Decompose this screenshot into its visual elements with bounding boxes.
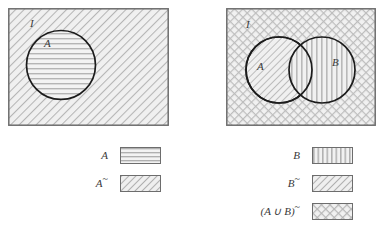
venn-panel-a-union-b-complement: I A B	[226, 8, 376, 126]
set-a-circle-left	[27, 31, 96, 100]
venn-svg-left: I A	[8, 8, 169, 126]
legend-label-b-complement: B~	[232, 178, 312, 189]
legend-label-text: B	[293, 149, 300, 161]
legend-right: B B~ (A ∪ B)~	[232, 141, 353, 225]
swatch-svg	[313, 148, 352, 163]
set-a-label-left: A	[43, 37, 51, 49]
legend-row: B~	[232, 169, 353, 197]
venn-svg-right: I A B	[226, 8, 376, 126]
swatch-svg	[121, 176, 160, 191]
swatch-svg	[313, 204, 352, 219]
legend-label-b: B	[232, 150, 312, 161]
swatch-svg	[121, 148, 160, 163]
venn-panel-a-complement: I A	[8, 8, 169, 126]
legend-label-text: A	[96, 177, 103, 189]
legend-left: A A~	[40, 141, 161, 197]
complement-tilde: ~	[295, 173, 300, 184]
complement-tilde: ~	[295, 201, 300, 212]
swatch-svg	[313, 176, 352, 191]
legend-swatch-diagonal-hatch	[312, 175, 353, 192]
legend-swatch-horizontal-hatch	[120, 147, 161, 164]
legend-label-text: (A ∪ B)	[261, 205, 295, 217]
legend-label-text: B	[288, 177, 295, 189]
legend-row: A~	[40, 169, 161, 197]
legend-label-text: A	[101, 149, 108, 161]
set-a-label-right: A	[256, 60, 264, 72]
set-b-circle-right	[289, 37, 355, 103]
complement-tilde: ~	[103, 173, 108, 184]
legend-label-a-union-b-complement: (A ∪ B)~	[232, 206, 312, 217]
set-b-label-right: B	[332, 56, 339, 68]
legend-label-a: A	[40, 150, 120, 161]
legend-swatch-vertical-hatch	[312, 147, 353, 164]
legend-label-a-complement: A~	[40, 178, 120, 189]
legend-row: A	[40, 141, 161, 169]
legend-row: B	[232, 141, 353, 169]
legend-swatch-cross-hatch	[312, 203, 353, 220]
legend-swatch-diagonal-hatch	[120, 175, 161, 192]
legend-row: (A ∪ B)~	[232, 197, 353, 225]
